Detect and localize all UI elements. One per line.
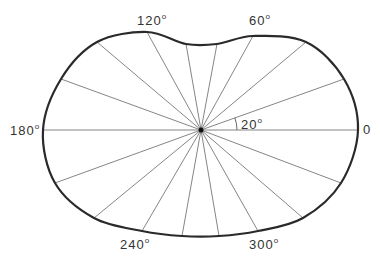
label-0-value: 0: [363, 122, 371, 137]
label-180-value: 180: [10, 123, 35, 138]
label-20-value: 20: [241, 117, 257, 132]
ray-20-deg: [201, 79, 344, 130]
label-300-deg: 300o: [249, 236, 278, 252]
label-300-value: 300: [249, 237, 274, 252]
label-240-value: 240: [120, 237, 145, 252]
degree-symbol: o: [145, 236, 149, 245]
degree-symbol: o: [274, 236, 278, 245]
label-0-deg: 0: [363, 122, 371, 137]
label-60-value: 60: [249, 13, 265, 28]
label-20-deg-angle: 20o: [241, 116, 262, 132]
radial-lines: [43, 32, 358, 236]
label-240-deg: 240o: [120, 236, 149, 252]
label-60-deg: 60o: [249, 12, 270, 28]
ray-200-deg: [55, 130, 201, 183]
degree-symbol: o: [162, 12, 166, 21]
polar-pattern-diagram: [0, 0, 380, 260]
degree-symbol: o: [35, 122, 39, 131]
ray-140-deg: [97, 42, 201, 130]
label-120-value: 120: [137, 13, 162, 28]
ray-340-deg: [201, 130, 341, 183]
ray-160-deg: [61, 79, 201, 130]
label-180-deg: 180o: [10, 122, 39, 138]
angle-arc-20: [235, 118, 237, 130]
ray-320-deg: [201, 130, 303, 218]
label-120-deg: 120o: [137, 12, 166, 28]
ray-80-deg: [201, 44, 217, 130]
ray-220-deg: [94, 130, 201, 218]
center-point: [199, 128, 204, 133]
degree-symbol: o: [257, 116, 261, 125]
degree-symbol: o: [265, 12, 269, 21]
